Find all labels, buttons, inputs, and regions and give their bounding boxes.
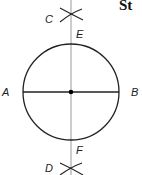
label-b: B	[131, 86, 138, 98]
label-e: E	[76, 28, 84, 40]
heading-partial: St	[119, 0, 132, 13]
construction-diagram: St C E A B F D	[0, 0, 142, 175]
label-c: C	[45, 13, 53, 25]
label-a: A	[1, 86, 9, 98]
label-f: F	[76, 144, 84, 156]
center-point	[69, 90, 74, 95]
label-d: D	[45, 162, 53, 174]
